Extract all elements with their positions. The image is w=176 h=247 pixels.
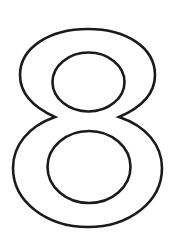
digit-canvas: 8: [0, 0, 176, 247]
eight-upper-counter: [53, 53, 125, 112]
eight-lower-counter: [48, 131, 131, 203]
numeral-eight-outline-icon: [0, 0, 176, 247]
